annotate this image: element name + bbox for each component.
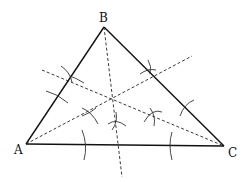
side-ac <box>26 144 224 146</box>
dashed-line-to-c <box>42 70 224 146</box>
vertex-label-b: B <box>99 11 108 25</box>
vertex-label-a: A <box>13 143 23 157</box>
vertex-label-c: C <box>228 146 237 160</box>
side-ab <box>26 27 104 144</box>
side-bc <box>104 27 224 146</box>
triangle-construction-diagram: B A C <box>0 0 251 182</box>
